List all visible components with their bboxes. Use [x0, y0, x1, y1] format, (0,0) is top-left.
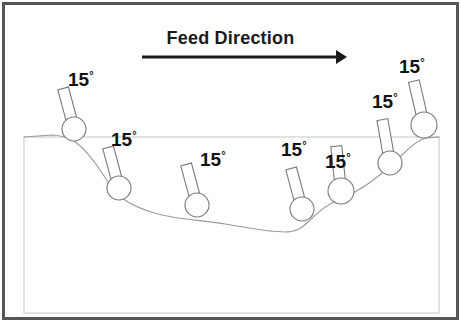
degree-symbol-icon: ° [302, 139, 306, 151]
angle-value: 15 [325, 151, 346, 172]
figure-root: Feed Direction 15°15°15°15°15°15°15° [0, 0, 461, 322]
angle-value: 15 [68, 69, 89, 90]
roller-6[interactable] [377, 119, 402, 175]
angle-label-2: 15° [111, 130, 137, 149]
degree-symbol-icon: ° [420, 56, 424, 68]
angle-label-7: 15° [399, 57, 425, 76]
angle-label-5: 15° [325, 152, 351, 171]
angle-label-4: 15° [281, 140, 307, 159]
roller-1-wheel [62, 117, 86, 141]
roller-5-wheel [328, 178, 354, 204]
angle-label-3: 15° [200, 150, 226, 169]
roller-7-wheel [411, 112, 437, 138]
feed-direction-arrow [142, 50, 347, 64]
degree-symbol-icon: ° [393, 91, 397, 103]
angle-value: 15 [281, 139, 302, 160]
roller-3[interactable] [181, 163, 209, 217]
roller-4[interactable] [286, 167, 314, 221]
angle-value: 15 [200, 149, 221, 170]
roller-3-wheel [185, 193, 209, 217]
roller-1[interactable] [58, 87, 86, 141]
degree-symbol-icon: ° [346, 151, 350, 163]
roller-2[interactable] [103, 146, 131, 200]
roller-2-wheel [107, 176, 131, 200]
degree-symbol-icon: ° [132, 129, 136, 141]
angle-label-6: 15° [372, 92, 398, 111]
web-curve [24, 135, 439, 232]
angle-value: 15 [372, 91, 393, 112]
degree-symbol-icon: ° [221, 149, 225, 161]
roller-7[interactable] [409, 80, 437, 138]
degree-symbol-icon: ° [89, 69, 93, 81]
arrow-head [336, 50, 347, 64]
angle-value: 15 [399, 56, 420, 77]
roller-4-wheel [290, 197, 314, 221]
angle-value: 15 [111, 129, 132, 150]
roller-6-wheel [378, 151, 402, 175]
angle-label-1: 15° [68, 70, 94, 89]
feed-direction-label: Feed Direction [0, 28, 461, 49]
